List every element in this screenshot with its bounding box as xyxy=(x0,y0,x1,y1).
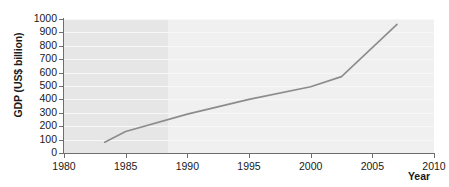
y-tick xyxy=(59,59,64,60)
x-tick-label: 1990 xyxy=(166,160,208,172)
y-tick-label: 900 xyxy=(15,25,57,37)
y-tick xyxy=(59,86,64,87)
y-tick-label: 200 xyxy=(15,119,57,131)
plot-area xyxy=(64,19,434,153)
x-tick-label: 2005 xyxy=(351,160,393,172)
y-tick xyxy=(59,19,64,20)
x-tick xyxy=(372,153,373,158)
x-tick xyxy=(249,153,250,158)
y-tick xyxy=(59,113,64,114)
data-line xyxy=(64,19,434,153)
y-tick-label: 100 xyxy=(15,133,57,145)
y-tick-label: 300 xyxy=(15,106,57,118)
y-tick-label: 600 xyxy=(15,66,57,78)
x-tick-label: 1985 xyxy=(105,160,147,172)
x-tick-label: 2010 xyxy=(413,160,449,172)
y-tick xyxy=(59,46,64,47)
y-tick-label: 800 xyxy=(15,39,57,51)
x-tick-label: 1995 xyxy=(228,160,270,172)
x-tick xyxy=(126,153,127,158)
y-tick-label: 0 xyxy=(15,146,57,158)
x-tick-label: 2000 xyxy=(290,160,332,172)
x-tick-label: 1980 xyxy=(43,160,85,172)
y-tick xyxy=(59,32,64,33)
gdp-line-chart: GDP (US$ billion) Year 01002003004005006… xyxy=(0,0,449,187)
x-tick xyxy=(434,153,435,158)
y-tick xyxy=(59,126,64,127)
y-tick-label: 500 xyxy=(15,79,57,91)
x-tick xyxy=(64,153,65,158)
x-tick xyxy=(187,153,188,158)
y-tick-label: 1000 xyxy=(15,12,57,24)
x-tick xyxy=(311,153,312,158)
y-tick xyxy=(59,73,64,74)
y-tick-label: 400 xyxy=(15,92,57,104)
y-tick xyxy=(59,99,64,100)
y-tick-label: 700 xyxy=(15,52,57,64)
y-tick xyxy=(59,140,64,141)
